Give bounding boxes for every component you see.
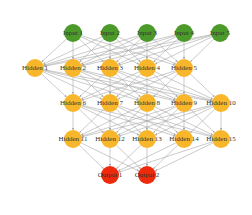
node-label: Hidden 7 [97,99,123,107]
edge-h1-h6 [42,74,67,97]
node-label: Output 1 [98,171,123,179]
node-label: Hidden 9 [171,99,197,107]
node-label: Hidden 13 [132,135,162,143]
node-in5: Input 5 [210,24,231,42]
node-label: Hidden 5 [171,64,197,72]
node-label: Input 2 [100,29,121,37]
node-h13: Hidden 13 [132,130,162,148]
node-out1: Output 1 [98,166,123,184]
node-h11: Hidden 11 [58,130,88,148]
node-label: Input 3 [137,29,158,37]
node-h15: Hidden 15 [206,130,236,148]
node-label: Hidden 12 [95,135,125,143]
node-out2: Output 2 [135,166,160,184]
node-label: Hidden 6 [60,99,86,107]
node-label: Input 4 [174,29,195,37]
edge-in3-h1 [44,36,139,66]
nodes-layer: Input 1Input 2Input 3Input 4Input 5Hidde… [22,24,236,184]
edge-h15-out1 [119,142,213,172]
edge-h5-h10 [191,74,215,97]
node-h2: Hidden 2 [60,59,86,77]
node-label: Hidden 1 [22,64,48,72]
node-label: Hidden 14 [169,135,199,143]
node-label: Hidden 3 [97,64,123,72]
node-h5: Hidden 5 [171,59,197,77]
neural-network-diagram: Input 1Input 2Input 3Input 4Input 5Hidde… [0,0,252,215]
node-label: Input 1 [63,29,84,37]
edge-h1-h8 [44,71,139,101]
node-h3: Hidden 3 [97,59,123,77]
node-h1: Hidden 1 [22,59,48,77]
node-label: Hidden 2 [60,64,86,72]
node-label: Hidden 11 [58,135,88,143]
node-h6: Hidden 6 [60,94,86,112]
edge-in5-h5 [190,39,213,61]
network-graph: Input 1Input 2Input 3Input 4Input 5Hidde… [0,0,252,215]
node-label: Hidden 8 [134,99,160,107]
edge-h11-out1 [79,145,103,168]
node-h10: Hidden 10 [206,94,236,112]
edge-in1-h1 [42,39,67,62]
node-h7: Hidden 7 [97,94,123,112]
node-h4: Hidden 4 [134,59,160,77]
node-label: Hidden 15 [206,135,236,143]
node-label: Hidden 4 [134,64,160,72]
node-label: Hidden 10 [206,99,236,107]
node-label: Input 5 [210,29,231,37]
node-label: Output 2 [135,171,160,179]
